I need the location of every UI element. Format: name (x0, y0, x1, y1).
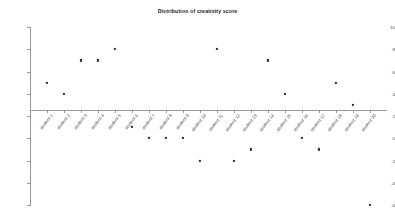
x-axis-tick (115, 110, 116, 113)
data-point (63, 93, 65, 95)
y-axis-tick-label: 8 (371, 47, 395, 52)
x-axis-tick-label: student 8 (158, 113, 173, 130)
x-axis-tick-label: student 1 (39, 113, 54, 130)
data-point (165, 137, 167, 139)
x-axis-tick-label: student 2 (56, 113, 71, 130)
y-axis-tick-label: -4 (371, 180, 395, 185)
x-axis-tick (302, 110, 303, 113)
x-axis-tick-label: student 18 (326, 113, 343, 132)
y-axis-tick-label: 10 (371, 25, 395, 30)
data-point (352, 104, 354, 106)
x-axis-tick-label: student 11 (208, 113, 224, 132)
x-axis-tick (251, 110, 252, 113)
data-point (199, 159, 201, 161)
data-point (284, 93, 286, 95)
chart-title: Distribution of creativity score (0, 8, 395, 14)
y-axis-tick (27, 138, 31, 139)
x-axis-tick (285, 110, 286, 113)
x-axis-tick (336, 110, 337, 113)
data-point (182, 137, 184, 139)
x-axis-tick-label: student 15 (275, 113, 292, 132)
data-point (148, 137, 150, 139)
y-axis-tick-label: -2 (371, 158, 395, 163)
x-axis-tick (319, 110, 320, 113)
data-point (250, 148, 252, 150)
x-axis-tick (149, 110, 150, 113)
y-axis-tick (27, 116, 31, 117)
x-axis-tick (98, 110, 99, 113)
x-axis-tick (353, 110, 354, 113)
x-axis-tick (370, 110, 371, 113)
x-axis-tick (132, 110, 133, 113)
y-axis-tick (27, 183, 31, 184)
data-point (233, 159, 235, 161)
y-axis-tick (27, 161, 31, 162)
data-point (318, 148, 320, 150)
data-point (301, 137, 303, 139)
x-axis-tick-label: student 20 (360, 113, 377, 132)
y-axis-tick (27, 72, 31, 73)
y-axis-tick (27, 49, 31, 50)
data-point (114, 48, 116, 50)
data-point (97, 59, 99, 61)
x-axis-tick-label: student 7 (141, 113, 156, 130)
x-axis-tick-label: student 10 (190, 113, 207, 132)
x-axis-tick (200, 110, 201, 113)
data-point (46, 82, 48, 84)
x-axis-tick (268, 110, 269, 113)
y-axis-tick (27, 205, 31, 206)
x-axis-line (30, 110, 387, 111)
data-point (369, 204, 371, 206)
x-axis-tick (183, 110, 184, 113)
x-axis-tick-label: student 9 (175, 113, 190, 130)
x-axis-tick (217, 110, 218, 113)
x-axis-tick (81, 110, 82, 113)
x-axis-tick-label: student 12 (224, 113, 241, 132)
x-axis-tick (47, 110, 48, 113)
x-axis-tick-label: student 3 (73, 113, 88, 130)
y-axis-tick-label: 0 (371, 136, 395, 141)
x-axis-tick-label: student 17 (309, 113, 326, 132)
data-point (267, 59, 269, 61)
x-axis-tick (166, 110, 167, 113)
x-axis-tick (64, 110, 65, 113)
x-axis-tick-label: student 14 (258, 113, 275, 132)
y-axis-tick-label: -6 (371, 203, 395, 208)
data-point (80, 59, 82, 61)
data-point (335, 82, 337, 84)
x-axis-tick-label: student 13 (241, 113, 258, 132)
y-axis-tick (27, 94, 31, 95)
y-axis-tick-label: 4 (371, 91, 395, 96)
y-axis-tick (27, 27, 31, 28)
data-point (216, 48, 218, 50)
x-axis-tick-label: student 4 (90, 113, 105, 130)
chart-screenshot: Distribution of creativity score 1086420… (0, 0, 395, 213)
x-axis-tick (234, 110, 235, 113)
y-axis-tick-label: 6 (371, 69, 395, 74)
x-axis-tick-label: student 19 (343, 113, 360, 132)
data-point (131, 126, 133, 128)
x-axis-tick-label: student 5 (107, 113, 122, 130)
x-axis-tick-label: student 16 (292, 113, 309, 132)
